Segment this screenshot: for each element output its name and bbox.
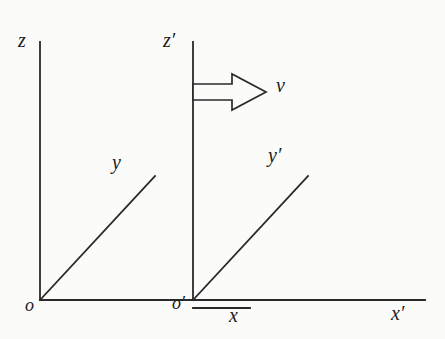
x-prime-axis-label: x′ — [391, 303, 404, 323]
physics-reference-frames-figure: z z′ y y′ o o′ x x′ v — [0, 0, 445, 339]
z-axis-label: z — [18, 30, 26, 50]
x-axis-label: x — [229, 305, 238, 325]
y-prime-axis-label: y′ — [268, 145, 281, 165]
velocity-arrow-icon — [193, 74, 266, 110]
origin-prime-label: o′ — [172, 294, 185, 312]
primed-frame-group — [193, 42, 308, 308]
velocity-label: v — [276, 75, 285, 95]
figure-canvas — [0, 0, 445, 339]
y-prime-axis-line — [193, 176, 308, 300]
z-prime-axis-label: z′ — [163, 30, 175, 50]
y-axis-line — [40, 176, 155, 300]
origin-label: o — [25, 296, 34, 314]
y-axis-label: y — [112, 152, 121, 172]
